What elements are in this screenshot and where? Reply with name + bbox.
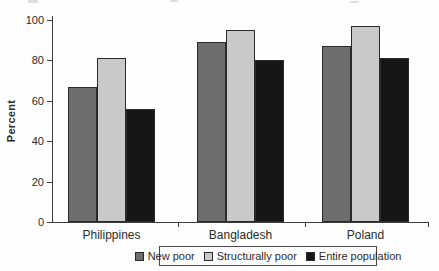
- scan-artifact: [170, 0, 178, 2]
- bar-new-poor-bangladesh: [197, 42, 226, 222]
- y-tick-mark: [47, 60, 52, 61]
- legend-label: Entire population: [319, 250, 402, 262]
- legend-label: Structurally poor: [217, 250, 297, 262]
- legend-swatch-icon: [204, 252, 213, 261]
- y-tick-mark: [47, 141, 52, 142]
- legend-label: New poor: [148, 250, 195, 262]
- y-tick-label: 100: [6, 14, 44, 26]
- bar-structurally-poor-philippines: [97, 58, 126, 222]
- bar-structurally-poor-poland: [351, 26, 380, 222]
- x-tick-mark: [428, 222, 429, 227]
- x-category-label: Philippines: [57, 229, 167, 242]
- bar-chart-figure: Percent 020406080100 PhilippinesBanglade…: [0, 0, 439, 271]
- scan-artifact: [28, 0, 38, 3]
- x-tick-mark: [178, 222, 179, 227]
- y-tick-label: 0: [6, 216, 44, 228]
- legend-item: Entire population: [306, 250, 402, 262]
- y-tick-mark: [47, 20, 52, 21]
- y-axis-line: [52, 16, 53, 222]
- legend-swatch-icon: [135, 252, 144, 261]
- bar-new-poor-poland: [322, 46, 351, 222]
- bar-entire-population-philippines: [126, 109, 155, 222]
- x-category-label: Poland: [311, 229, 421, 242]
- legend-item: Structurally poor: [204, 250, 297, 262]
- bar-entire-population-bangladesh: [255, 60, 284, 222]
- y-axis-title: Percent: [5, 61, 21, 181]
- x-category-label: Bangladesh: [186, 229, 296, 242]
- bar-structurally-poor-bangladesh: [226, 30, 255, 222]
- x-tick-mark: [305, 222, 306, 227]
- y-tick-label: 80: [6, 54, 44, 66]
- y-tick-label: 60: [6, 95, 44, 107]
- y-tick-mark: [47, 182, 52, 183]
- y-tick-mark: [47, 101, 52, 102]
- y-tick-mark: [47, 222, 52, 223]
- legend-item: New poor: [135, 250, 195, 262]
- y-tick-label: 40: [6, 135, 44, 147]
- y-tick-label: 20: [6, 176, 44, 188]
- legend-swatch-icon: [306, 252, 315, 261]
- chart-legend: New poorStructurally poorEntire populati…: [159, 246, 377, 266]
- bar-entire-population-poland: [380, 58, 409, 222]
- scan-artifact: [350, 1, 359, 3]
- bar-new-poor-philippines: [68, 87, 97, 222]
- x-axis-line: [52, 222, 429, 223]
